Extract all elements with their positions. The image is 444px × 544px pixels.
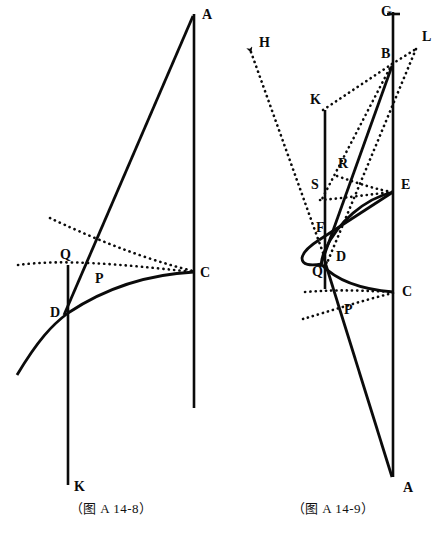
label-point-P: P (344, 302, 353, 317)
label-point-G: G (381, 4, 392, 19)
dotted-B-to-L (392, 49, 416, 64)
label-point-C: C (402, 284, 412, 299)
label-point-C: C (200, 265, 210, 280)
label-point-E: E (401, 177, 410, 192)
label-point-F: F (316, 220, 325, 235)
label-point-Q: Q (312, 264, 323, 279)
label-point-K: K (74, 479, 85, 494)
label-point-Q: Q (60, 247, 71, 262)
label-point-H: H (259, 35, 270, 50)
label-point-K: K (310, 92, 321, 107)
fig2-solid-strokes (302, 12, 400, 477)
label-point-D: D (336, 249, 346, 264)
label-point-A: A (403, 480, 414, 495)
label-point-S: S (311, 177, 319, 192)
label-point-B: B (381, 46, 390, 61)
label-point-P: P (95, 271, 104, 286)
label-point-D: D (50, 305, 60, 320)
dotted-K-to-B (323, 64, 392, 110)
figure-caption-left: （图 A 14-8） (0, 498, 222, 517)
slant-line-D-A (325, 262, 392, 477)
label-point-L: L (422, 29, 431, 44)
fig1-point-labels: A C Q P D K (50, 7, 213, 494)
dotted-R-to-E (337, 176, 393, 192)
figure-a-14-9-group: G L H B K R S E F D Q C P A (251, 4, 431, 495)
label-point-A: A (202, 7, 213, 22)
figure-a-14-8-group: A C Q P D K (17, 7, 213, 494)
curve-D-C (17, 272, 194, 375)
label-point-R: R (338, 156, 349, 171)
fig1-solid-strokes (17, 14, 194, 485)
fig2-dotted-strokes (251, 49, 416, 319)
figure-page: A C Q P D K (0, 0, 444, 544)
figure-caption-right: （图 A 14-9） (222, 498, 444, 517)
fig2-point-labels: G L H B K R S E F D Q C P A (259, 4, 431, 495)
geometry-figures-canvas: A C Q P D K (0, 0, 444, 544)
fig1-dotted-strokes (18, 218, 193, 272)
